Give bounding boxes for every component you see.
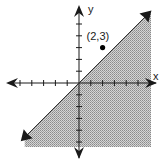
inequality-graph: (2,3) x y — [0, 0, 161, 162]
y-axis-label: y — [88, 3, 94, 15]
x-axis-label: x — [153, 70, 159, 82]
data-point-label: (2,3) — [87, 30, 110, 42]
data-point — [100, 45, 105, 50]
